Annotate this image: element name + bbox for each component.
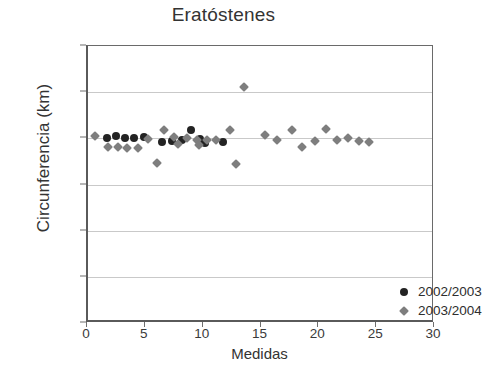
data-point: [90, 131, 100, 141]
data-point: [122, 143, 132, 153]
y-tick-mark: [80, 275, 86, 276]
chart-title: Eratóstenes: [0, 4, 447, 26]
x-tick-mark: [144, 322, 145, 327]
gridline: [88, 277, 432, 278]
data-point: [133, 143, 143, 153]
data-point: [231, 159, 241, 169]
data-point: [112, 132, 120, 140]
x-tick-label: 30: [413, 326, 453, 341]
data-point: [332, 135, 342, 145]
legend-marker-diamond-icon: [396, 303, 412, 319]
gridline: [88, 231, 432, 232]
x-tick-label: 10: [182, 326, 222, 341]
data-point: [130, 134, 138, 142]
legend-marker-circle-icon: [396, 284, 412, 300]
data-point: [287, 126, 297, 136]
gridline: [88, 185, 432, 186]
x-tick-mark: [375, 322, 376, 327]
y-tick-mark: [80, 45, 86, 46]
y-tick-mark: [80, 91, 86, 92]
data-point: [225, 126, 235, 136]
plot-area: 2002/2003 2003/2004: [86, 45, 433, 322]
x-tick-label: 5: [124, 326, 164, 341]
x-tick-label: 15: [240, 326, 280, 341]
data-point: [159, 126, 169, 136]
data-point: [239, 82, 249, 92]
data-point: [121, 134, 129, 142]
data-point: [187, 126, 195, 134]
gridline: [88, 92, 432, 93]
x-tick-mark: [317, 322, 318, 327]
data-point: [297, 142, 307, 152]
y-tick-mark: [80, 183, 86, 184]
data-point: [321, 124, 331, 134]
data-point: [103, 142, 113, 152]
x-tick-mark: [433, 322, 434, 327]
legend-label: 2002/2003: [418, 284, 482, 299]
y-tick-mark: [80, 137, 86, 138]
legend-label: 2003/2004: [418, 303, 482, 318]
data-point: [103, 134, 111, 142]
legend: 2002/2003 2003/2004: [396, 282, 482, 320]
data-point: [152, 158, 162, 168]
data-point: [354, 136, 364, 146]
x-tick-mark: [260, 322, 261, 327]
x-tick-mark: [86, 322, 87, 327]
y-axis-title: Circunferencia (km): [34, 18, 54, 298]
x-tick-label: 20: [297, 326, 337, 341]
x-tick-label: 0: [66, 326, 106, 341]
x-tick-mark: [202, 322, 203, 327]
data-point: [272, 135, 282, 145]
legend-item-2003-2004: 2003/2004: [396, 301, 482, 320]
x-axis-title: Medidas: [86, 345, 433, 362]
data-point: [343, 133, 353, 143]
y-tick-mark: [80, 229, 86, 230]
data-point: [158, 138, 166, 146]
x-tick-label: 25: [355, 326, 395, 341]
legend-item-2002-2003: 2002/2003: [396, 282, 482, 301]
